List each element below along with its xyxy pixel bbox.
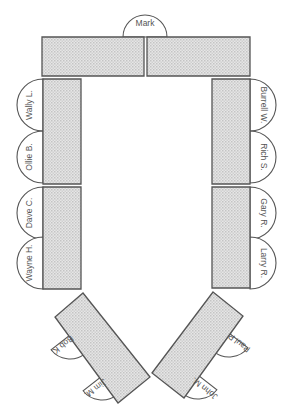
table-left-upper — [43, 79, 81, 184]
seat-label: Gary R. — [259, 198, 269, 227]
table-top-left — [42, 37, 144, 76]
seat-label: Larry R. — [259, 248, 269, 278]
seat-label: Wally L. — [24, 90, 34, 120]
table-top-right — [147, 37, 250, 76]
table-left-lower — [43, 187, 81, 289]
seat-label: Ollie B. — [24, 143, 34, 170]
table-right-lower — [212, 187, 250, 288]
table-right-upper — [212, 79, 250, 184]
seat-label: Burrell W. — [259, 87, 269, 124]
seat-label: Mark — [136, 18, 156, 28]
seat-label: Rich S. — [259, 143, 269, 170]
seat-label: Wayne H. — [24, 244, 34, 281]
seat-label: Dave C. — [24, 198, 34, 229]
seating-chart: MarkWally L.Ollie B.Dave C.Wayne H.Burre… — [0, 0, 293, 418]
